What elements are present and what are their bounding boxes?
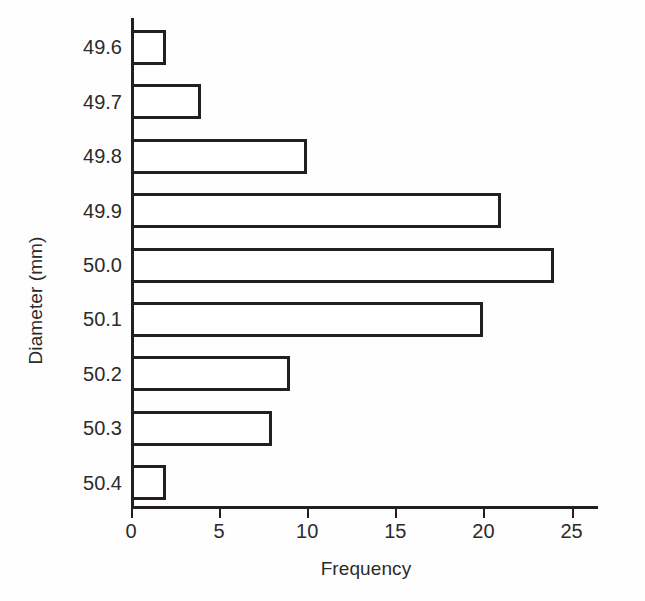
- x-tick-5: [219, 509, 221, 518]
- x-tick-label-15: 15: [365, 520, 425, 543]
- bar-49.7: [131, 84, 201, 119]
- bar-50.4: [131, 465, 166, 500]
- bar-49.6: [131, 30, 166, 65]
- bar-50.2: [131, 356, 290, 391]
- y-tick-label-49.7: 49.7: [2, 92, 122, 112]
- bar-row: [131, 30, 166, 65]
- y-tick-label-49.6: 49.6: [2, 37, 122, 57]
- bar-50.1: [131, 302, 483, 337]
- y-axis-tick-labels: 49.649.749.849.950.050.150.250.350.4: [0, 18, 122, 508]
- y-tick-label-50.0: 50.0: [2, 255, 122, 275]
- bar-50.3: [131, 411, 272, 446]
- y-tick-label-49.8: 49.8: [2, 146, 122, 166]
- x-tick-label-25: 25: [542, 520, 602, 543]
- x-tick-label-10: 10: [277, 520, 337, 543]
- bar-row: [131, 411, 272, 446]
- x-tick-0: [131, 509, 133, 518]
- x-tick-25: [572, 509, 574, 518]
- x-axis-title: Frequency: [131, 558, 601, 580]
- bar-49.8: [131, 139, 307, 174]
- bar-row: [131, 139, 307, 174]
- y-tick-label-50.2: 50.2: [2, 364, 122, 384]
- bar-row: [131, 248, 554, 283]
- y-tick-label-49.9: 49.9: [2, 201, 122, 221]
- x-tick-10: [307, 509, 309, 518]
- x-axis-ticks: 0510152025: [131, 509, 601, 553]
- x-tick-15: [395, 509, 397, 518]
- x-tick-label-5: 5: [189, 520, 249, 543]
- plot-area: [131, 18, 598, 508]
- bar-chart: Diameter (mm) 49.649.749.849.950.050.150…: [0, 0, 645, 601]
- bar-row: [131, 193, 501, 228]
- y-tick-label-50.3: 50.3: [2, 418, 122, 438]
- bar-49.9: [131, 193, 501, 228]
- bar-row: [131, 356, 290, 391]
- x-tick-label-0: 0: [101, 520, 161, 543]
- bar-row: [131, 302, 483, 337]
- x-tick-label-20: 20: [453, 520, 513, 543]
- x-tick-20: [483, 509, 485, 518]
- bar-row: [131, 465, 166, 500]
- y-tick-label-50.1: 50.1: [2, 309, 122, 329]
- bar-50.0: [131, 248, 554, 283]
- y-tick-label-50.4: 50.4: [2, 473, 122, 493]
- bar-row: [131, 84, 201, 119]
